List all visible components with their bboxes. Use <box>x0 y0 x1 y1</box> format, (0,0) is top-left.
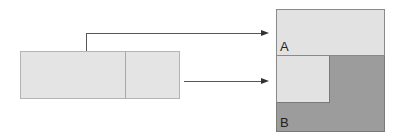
arrowhead-b-icon <box>261 78 269 84</box>
region-a-label: A <box>280 40 289 53</box>
source-divider <box>125 51 126 99</box>
region-a <box>276 9 385 56</box>
region-b-label: B <box>280 116 289 129</box>
connector-a-horizontal <box>86 33 261 34</box>
arrowhead-a-icon <box>261 30 269 36</box>
region-b-light-area <box>276 56 330 103</box>
connector-b-horizontal <box>184 81 261 82</box>
connector-a-vertical <box>86 33 87 51</box>
source-block <box>20 51 180 99</box>
